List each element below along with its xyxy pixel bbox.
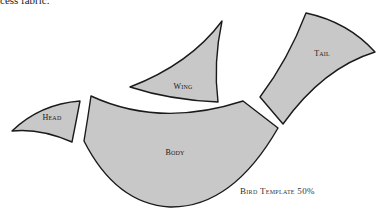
body-label: Body [165,148,185,157]
bird-template-diagram: Head Wing Tail Body [0,0,382,210]
tail-piece: Tail [260,13,375,124]
tail-label: Tail [314,49,330,58]
head-label: Head [43,113,62,122]
wing-piece: Wing [130,21,222,102]
template-caption: Bird Template 50% [240,186,315,196]
wing-label: Wing [173,82,192,91]
head-piece: Head [12,101,80,142]
